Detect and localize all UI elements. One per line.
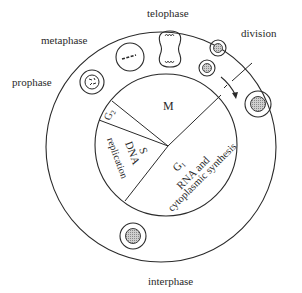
telophase-cell-icon — [159, 31, 180, 67]
daughter-cell-lower-icon — [199, 60, 215, 76]
interphase-cell-icon — [120, 223, 146, 249]
prophase-cell-icon — [80, 70, 104, 94]
division-label: division — [241, 27, 277, 39]
outer-cycle-circle — [46, 32, 276, 262]
telophase-label: telophase — [147, 7, 189, 19]
m-g1-boundary-line — [168, 95, 221, 146]
metaphase-label: metaphase — [41, 34, 88, 46]
metaphase-cell-icon — [116, 43, 144, 71]
m-g2-boundary-line — [112, 101, 168, 146]
cell-cycle-diagram: prophase metaphase telophase division in… — [0, 0, 302, 293]
m-phase-label: M — [163, 99, 174, 113]
prophase-label: prophase — [12, 76, 52, 88]
cytoplasmic-synthesis-label: cytoplasmic synthesis — [166, 141, 239, 214]
interphase-label: interphase — [148, 275, 193, 287]
daughter-cell-upper-icon — [210, 40, 226, 56]
division-marker-tick — [224, 85, 227, 88]
